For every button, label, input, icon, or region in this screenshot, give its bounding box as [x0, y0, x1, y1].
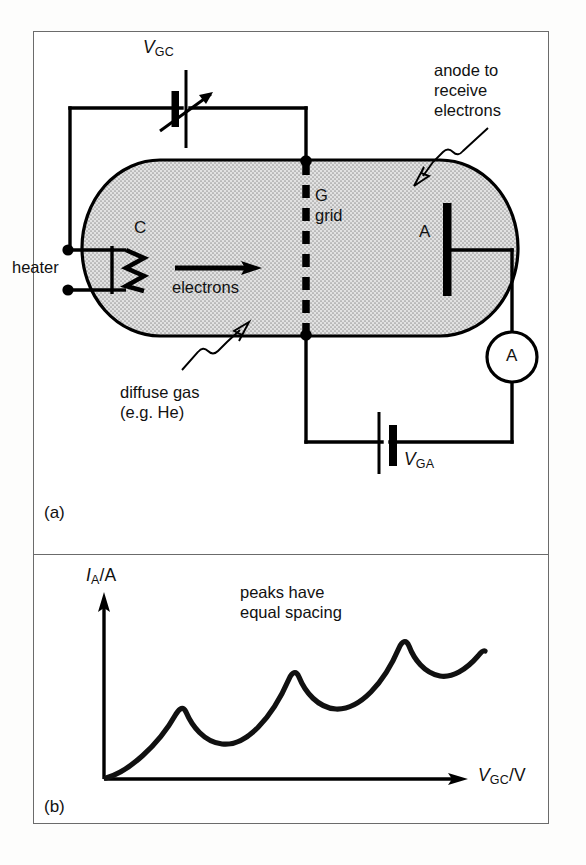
y-axis-label: IA/A [86, 566, 116, 586]
panel-a-tag: (a) [44, 503, 65, 522]
ammeter-label: A [506, 346, 517, 365]
peaks-annotation-line1: peaks have [240, 583, 324, 601]
electrons-label: electrons [172, 278, 239, 296]
figure-outer-frame [33, 31, 549, 824]
gas-callout-line2: (e.g. He) [120, 403, 184, 421]
heater-label: heater [12, 258, 59, 276]
figure-page: VGC C heater electrons G grid A anode to… [0, 0, 586, 865]
anode-callout-line2: receive [434, 81, 487, 99]
grid-label: G [315, 186, 328, 204]
cathode-label: C [134, 218, 146, 237]
vgc-supply-label: VGC [143, 38, 174, 58]
vga-battery-label: VGA [404, 450, 434, 470]
grid-sublabel: grid [315, 206, 343, 224]
anode-callout-line3: electrons [434, 101, 501, 119]
anode-callout-line1: anode to [434, 61, 498, 79]
panel-divider [33, 554, 549, 555]
x-axis-label: VGC/V [478, 766, 526, 786]
anode-label: A [419, 222, 430, 241]
gas-callout-line1: diffuse gas [120, 383, 200, 401]
panel-b-tag: (b) [44, 797, 65, 816]
peaks-annotation-line2: equal spacing [240, 603, 342, 621]
